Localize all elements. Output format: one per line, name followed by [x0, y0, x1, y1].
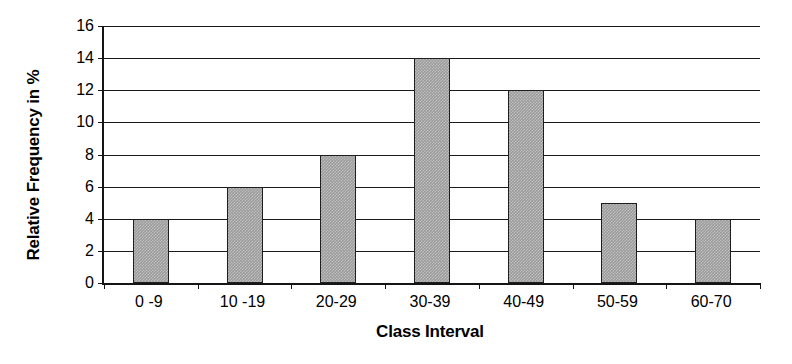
x-axis-tick-label: 60-70: [664, 292, 758, 312]
x-axis-tick-label: 30-39: [383, 292, 477, 312]
x-axis-tick-label: 10 -19: [196, 292, 290, 312]
y-axis-tick-mark: [98, 251, 104, 252]
x-axis-tick-mark: [291, 283, 292, 289]
y-axis-tick-mark: [98, 26, 104, 27]
y-axis-tick-mark: [98, 155, 104, 156]
y-axis-tick-label: 0: [54, 275, 94, 291]
x-axis-tick-mark: [666, 283, 667, 289]
gridline: [104, 26, 760, 27]
y-axis-tick-label: 2: [54, 243, 94, 259]
y-axis-tick-mark: [98, 58, 104, 59]
y-axis-tick-label: 12: [54, 82, 94, 98]
x-axis-tick-mark: [760, 283, 761, 289]
plot-area: [102, 26, 760, 285]
bar: [508, 90, 544, 283]
bar: [133, 219, 169, 283]
y-axis-tick-label: 6: [54, 179, 94, 195]
x-axis-tick-mark: [104, 283, 105, 289]
y-axis-tick-label: 16: [54, 18, 94, 34]
y-axis-tick-labels: 0246810121416: [54, 26, 94, 283]
x-axis-tick-label: 50-59: [571, 292, 665, 312]
y-axis-tick-mark: [98, 122, 104, 123]
y-axis-tick-label: 8: [54, 147, 94, 163]
y-axis-tick-mark: [98, 187, 104, 188]
x-axis-title: Class Interval: [102, 322, 758, 342]
y-axis-title: Relative Frequency in %: [14, 20, 54, 310]
x-axis-tick-mark: [385, 283, 386, 289]
bar: [695, 219, 731, 283]
x-axis-tick-label: 0 -9: [102, 292, 196, 312]
x-axis-tick-label: 40-49: [477, 292, 571, 312]
bar: [414, 58, 450, 283]
y-axis-tick-mark: [98, 219, 104, 220]
y-axis-tick-mark: [98, 90, 104, 91]
x-axis-tick-mark: [198, 283, 199, 289]
histogram-chart: Relative Frequency in % 0246810121416 0 …: [0, 0, 792, 364]
bar: [320, 155, 356, 284]
x-axis-tick-labels: 0 -910 -1920-2930-3940-4950-5960-70: [102, 292, 758, 316]
y-axis-tick-label: 14: [54, 50, 94, 66]
y-axis-tick-label: 4: [54, 211, 94, 227]
x-axis-tick-mark: [573, 283, 574, 289]
x-axis-tick-label: 20-29: [289, 292, 383, 312]
x-axis-tick-mark: [479, 283, 480, 289]
bar: [601, 203, 637, 283]
y-axis-tick-label: 10: [54, 114, 94, 130]
bar: [227, 187, 263, 283]
